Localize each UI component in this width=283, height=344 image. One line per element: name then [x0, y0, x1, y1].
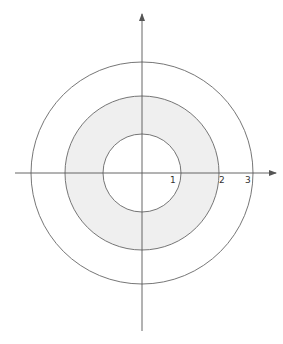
- x-tick-label-3: 3: [245, 175, 251, 185]
- x-tick-label-1: 1: [170, 175, 176, 185]
- x-tick-label-2: 2: [219, 175, 225, 185]
- annulus-diagram: 1 2 3: [0, 0, 283, 344]
